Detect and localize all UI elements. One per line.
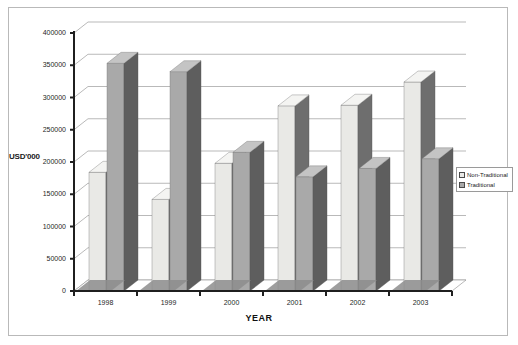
gridline-connector (74, 248, 88, 259)
x-tick-label: 2000 (206, 299, 258, 306)
legend-swatch-icon (459, 172, 465, 178)
gridline-connector (74, 183, 88, 194)
gridline-connector (74, 216, 88, 227)
y-tick-label: 250000 (24, 126, 66, 133)
bar-chart-svg (0, 0, 518, 345)
bar-1998-traditional (107, 52, 138, 291)
bar-2003-traditional (422, 148, 453, 291)
gridline-connector (74, 22, 88, 33)
gridline-connector (74, 119, 88, 130)
y-tick-label: 150000 (24, 190, 66, 197)
legend-item-non-traditional: Non-Traditional (459, 170, 510, 180)
y-tick-label: 200000 (24, 158, 66, 165)
x-tick-label: 2002 (332, 299, 384, 306)
chart-plot-area: USD'000 05000010000015000020000025000030… (0, 0, 518, 345)
bar-1999-traditional (170, 61, 201, 291)
x-tick-label: 2003 (395, 299, 447, 306)
gridline-connector (74, 87, 88, 98)
x-tick-label: 2001 (269, 299, 321, 306)
y-tick-label: 400000 (24, 29, 66, 36)
legend-swatch-icon (459, 182, 465, 188)
x-axis-title: YEAR (0, 313, 518, 323)
legend-label: Non-Traditional (467, 172, 508, 178)
y-tick-label: 50000 (24, 255, 66, 262)
gridline-connector (74, 151, 88, 162)
bar-2001-traditional (296, 166, 327, 291)
x-tick-label: 1999 (143, 299, 195, 306)
y-tick-label: 100000 (24, 223, 66, 230)
legend-label: Traditional (467, 182, 495, 188)
y-tick-label: 300000 (24, 94, 66, 101)
y-tick-label: 0 (24, 287, 66, 294)
legend-item-traditional: Traditional (459, 180, 510, 190)
gridline-connector (74, 54, 88, 65)
y-tick-label: 350000 (24, 61, 66, 68)
bar-2000-traditional (233, 141, 264, 291)
bar-2002-traditional (359, 157, 390, 291)
chart-legend: Non-Traditional Traditional (456, 167, 513, 192)
x-tick-label: 1998 (80, 299, 132, 306)
